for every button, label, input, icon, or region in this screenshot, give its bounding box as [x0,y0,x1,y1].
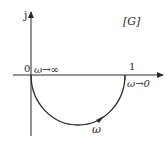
origin-label: 0 [24,64,30,74]
nyquist-curve [31,75,125,125]
diagram-title: [G] [123,16,140,27]
nyquist-diagram [0,0,167,148]
unit-point-limit-label: ω→0 [127,79,150,89]
origin-limit-label: ω→∞ [34,65,59,75]
curve-direction-label: ω [92,124,101,135]
direction-arrow-icon [96,116,104,123]
imaginary-axis-label: j [24,10,27,21]
unit-point-label: 1 [129,62,135,72]
